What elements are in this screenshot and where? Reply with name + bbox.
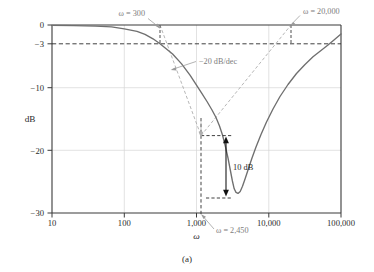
asymptote-lines	[160, 25, 291, 136]
y-tick-label-0: 0	[40, 20, 44, 30]
x-tick-label-10000: 10,000	[257, 218, 281, 228]
y-tick-label-minus30: −30	[31, 208, 44, 218]
leader-slope-arrowhead	[171, 67, 177, 70]
annotation-notch-center: ω = 2,450	[216, 226, 249, 235]
depth-span-arrow	[223, 136, 229, 196]
y-axis-title: dB	[25, 114, 36, 124]
annotation-depth-span: 10 dB	[233, 163, 254, 172]
annotation-right-corner: ω = 20,000	[303, 7, 340, 16]
x-tick-marks	[52, 213, 341, 218]
x-tick-label-100: 100	[118, 218, 131, 228]
x-tick-label-10: 10	[48, 218, 57, 228]
annotation-slope: −20 dB/dec	[199, 57, 237, 66]
asymptote-falling	[160, 25, 201, 136]
x-tick-labels: 10 100 1,000 10,000 100,000	[48, 218, 355, 228]
x-tick-label-1000: 1,000	[187, 218, 206, 228]
figure-caption: (a)	[182, 254, 192, 264]
bode-plot-svg: 0 −3 −10 −20 −30 10 100 1,000 10,000 100…	[0, 0, 374, 272]
y-tick-marks	[48, 25, 53, 213]
x-axis-title: ω	[193, 231, 200, 241]
x-tick-label-100000: 100,000	[327, 218, 355, 228]
asymptote-vertex-arrowhead	[199, 132, 204, 138]
asymptote-rising	[201, 25, 291, 136]
y-tick-label-minus20: −20	[31, 146, 44, 156]
arrow-head-down	[223, 190, 229, 197]
annotation-leaders	[148, 16, 300, 230]
vertical-gridlines	[124, 25, 268, 213]
annotation-left-corner: ω = 300	[119, 9, 145, 18]
y-tick-label-minus10: −10	[31, 83, 44, 93]
figure-container: 0 −3 −10 −20 −30 10 100 1,000 10,000 100…	[0, 0, 374, 272]
y-tick-label-minus3: −3	[35, 39, 44, 49]
